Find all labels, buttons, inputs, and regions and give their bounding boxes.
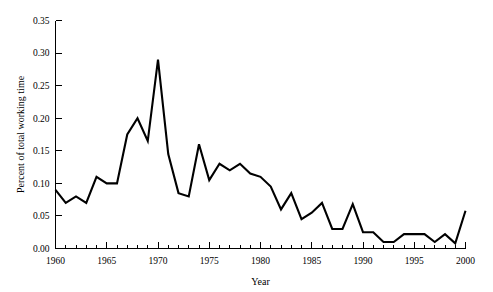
x-tick-label: 1970: [149, 256, 168, 266]
axis-frame: [56, 21, 466, 249]
chart-figure: 0.000.050.100.150.200.250.300.35 1960196…: [0, 0, 493, 292]
y-tick-label: 0.00: [33, 244, 50, 254]
data-series-line: [56, 60, 466, 244]
y-axis-title: Percent of total working time: [15, 75, 26, 193]
y-tick-label: 0.25: [33, 81, 50, 91]
x-tick-label: 1960: [46, 256, 65, 266]
x-axis-tick-labels: 196019651970197519801985199019952000: [46, 256, 475, 266]
y-tick-label: 0.15: [33, 146, 50, 156]
x-tick-label: 1975: [200, 256, 219, 266]
x-tick-label: 1990: [354, 256, 373, 266]
y-tick-label: 0.10: [33, 179, 50, 189]
x-tick-label: 1980: [251, 256, 270, 266]
y-axis-ticks: [56, 21, 62, 249]
x-tick-label: 1995: [405, 256, 424, 266]
y-tick-label: 0.35: [33, 16, 50, 26]
y-tick-label: 0.20: [33, 114, 50, 124]
x-tick-label: 1965: [97, 256, 116, 266]
y-tick-label: 0.05: [33, 211, 50, 221]
x-axis-title: Year: [251, 276, 270, 287]
x-tick-label: 2000: [456, 256, 475, 266]
x-tick-label: 1985: [302, 256, 321, 266]
y-tick-label: 0.30: [33, 48, 50, 58]
line-chart: 0.000.050.100.150.200.250.300.35 1960196…: [0, 0, 493, 292]
y-axis-tick-labels: 0.000.050.100.150.200.250.300.35: [33, 16, 50, 254]
